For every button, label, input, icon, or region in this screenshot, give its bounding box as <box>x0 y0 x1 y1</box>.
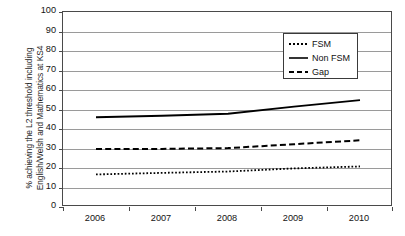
line-chart: % achieving the L2 threshold including E… <box>0 0 405 236</box>
series-line-gap <box>96 140 360 149</box>
x-axis-tick-mark <box>261 207 262 211</box>
legend: FSM Non FSM Gap <box>283 33 358 79</box>
series-line-fsm <box>96 166 360 174</box>
y-axis-tick-label: 90 <box>30 26 56 35</box>
legend-swatch-solid-icon <box>289 53 308 63</box>
legend-label-fsm: FSM <box>312 40 331 49</box>
legend-item-fsm: FSM <box>289 37 357 51</box>
x-axis-tick-label: 2010 <box>329 214 389 223</box>
y-axis-tick-label: 70 <box>30 65 56 74</box>
y-axis-tick-label: 20 <box>30 162 56 171</box>
x-axis-tick-label: 2008 <box>197 214 257 223</box>
y-axis-title: % achieving the L2 threshold including E… <box>0 0 34 236</box>
y-axis-tick-label: 60 <box>30 84 56 93</box>
y-axis-tick-label: 40 <box>30 123 56 132</box>
legend-item-gap: Gap <box>289 65 357 79</box>
series-line-non-fsm <box>96 100 360 117</box>
legend-swatch-dashed-icon <box>289 67 308 77</box>
x-axis-tick-mark <box>195 207 196 211</box>
x-axis-tick-mark <box>129 207 130 211</box>
y-axis-tick-label: 50 <box>30 104 56 113</box>
x-axis-tick-label: 2009 <box>263 214 323 223</box>
y-axis-tick-label: 80 <box>30 45 56 54</box>
x-axis-tick-mark <box>327 207 328 211</box>
y-axis-tick-label: 30 <box>30 143 56 152</box>
legend-label-non-fsm: Non FSM <box>312 54 350 63</box>
legend-label-gap: Gap <box>312 68 329 77</box>
x-axis-tick-mark <box>63 207 64 211</box>
y-axis-tick-label: 0 <box>30 201 56 210</box>
legend-swatch-dotted-icon <box>289 39 308 49</box>
x-axis-tick-label: 2007 <box>131 214 191 223</box>
y-axis-tick-label: 10 <box>30 182 56 191</box>
x-axis-tick-label: 2006 <box>65 214 125 223</box>
x-axis-tick-mark <box>392 207 393 211</box>
legend-item-non-fsm: Non FSM <box>289 51 357 65</box>
y-axis-tick-label: 100 <box>30 6 56 15</box>
